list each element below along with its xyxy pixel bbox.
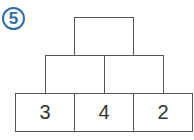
exercise-number-badge: 5 [2, 7, 25, 30]
pyramid-middle-cell-right[interactable] [104, 55, 164, 94]
pyramid-bottom-cell-left: 3 [15, 93, 75, 132]
pyramid-top-cell[interactable] [74, 17, 134, 56]
pyramid-bottom-cell-middle: 4 [74, 93, 134, 132]
pyramid-bottom-cell-right: 2 [133, 93, 193, 132]
pyramid-middle-cell-left[interactable] [45, 55, 105, 94]
